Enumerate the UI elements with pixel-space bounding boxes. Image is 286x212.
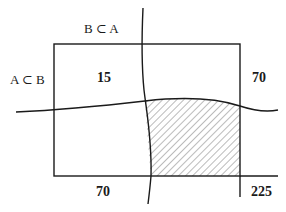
venn-diagram-canvas	[0, 0, 286, 212]
hatched-region	[145, 99, 240, 176]
top-right-value: 70	[252, 70, 266, 86]
left-label: A ⊂ B	[10, 72, 45, 88]
bottom-right-value: 225	[251, 184, 272, 200]
bottom-left-value: 70	[96, 184, 110, 200]
top-label: B ⊂ A	[84, 21, 119, 37]
top-left-value: 15	[97, 70, 111, 86]
